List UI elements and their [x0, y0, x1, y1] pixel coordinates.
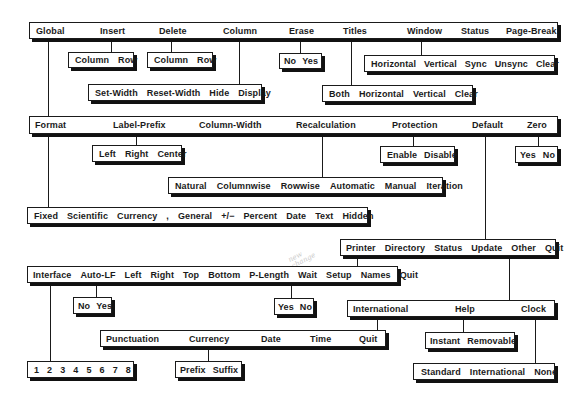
format-text-item[interactable]: Text [315, 211, 333, 221]
clock-none-item[interactable]: None [534, 367, 557, 377]
window-unsync-item[interactable]: Unsync [495, 59, 528, 69]
global-recalculation-item[interactable]: Recalculation [296, 120, 356, 130]
window-clear-item[interactable]: Clear [536, 59, 559, 69]
wait-yes-item[interactable]: Yes [278, 302, 294, 312]
default-directory-item[interactable]: Directory [385, 243, 425, 253]
format-fixed-item[interactable]: Fixed [34, 211, 58, 221]
currency-prefix-item[interactable]: Prefix [180, 365, 206, 375]
protection-enable-item[interactable]: Enable [387, 150, 417, 160]
window-sync-item[interactable]: Sync [465, 59, 487, 69]
window-horizontal-item[interactable]: Horizontal [371, 59, 416, 69]
menu-item-status[interactable]: Status [461, 26, 489, 36]
titles-both-item[interactable]: Both [329, 89, 350, 99]
intl-date-item[interactable]: Date [261, 334, 281, 344]
printer-top-item[interactable]: Top [183, 270, 199, 280]
protection-disable-item[interactable]: Disable [424, 150, 457, 160]
menu-item-delete[interactable]: Delete [159, 26, 187, 36]
recalc-manual-item[interactable]: Manual [385, 181, 417, 191]
global-label-prefix-item[interactable]: Label-Prefix [113, 120, 166, 130]
intl-quit-item[interactable]: Quit [359, 334, 377, 344]
printer-bottom-item[interactable]: Bottom [208, 270, 240, 280]
format-comma-item[interactable]: , [166, 211, 169, 221]
help-instant-item[interactable]: Instant [430, 336, 460, 346]
interface-3-item[interactable]: 3 [60, 365, 65, 375]
default-status-item[interactable]: Status [434, 243, 462, 253]
zero-yes-item[interactable]: Yes [520, 150, 536, 160]
global-protection-item[interactable]: Protection [392, 120, 438, 130]
format-date-item[interactable]: Date [286, 211, 306, 221]
interface-4-item[interactable]: 4 [73, 365, 78, 375]
menu-item-page-break[interactable]: Page-Break [506, 26, 557, 36]
titles-clear-item[interactable]: Clear [455, 89, 478, 99]
menu-item-global[interactable]: Global [36, 26, 65, 36]
intl-time-item[interactable]: Time [310, 334, 331, 344]
default-other-item[interactable]: Other [511, 243, 536, 253]
menu-item-titles[interactable]: Titles [343, 26, 367, 36]
label-left-item[interactable]: Left [99, 149, 116, 159]
printer-names-item[interactable]: Names [361, 270, 391, 280]
interface-5-item[interactable]: 5 [86, 365, 91, 375]
clock-international-item[interactable]: International [470, 367, 525, 377]
format-general-item[interactable]: General [178, 211, 212, 221]
default-update-item[interactable]: Update [471, 243, 502, 253]
column-display-item[interactable]: Display [238, 88, 271, 98]
other-clock-item[interactable]: Clock [521, 304, 546, 314]
insert-column-item[interactable]: Column [75, 55, 109, 65]
global-format-item[interactable]: Format [35, 120, 66, 130]
menu-item-erase[interactable]: Erase [289, 26, 314, 36]
interface-7-item[interactable]: 7 [113, 365, 118, 375]
currency-suffix-item[interactable]: Suffix [213, 365, 239, 375]
help-removable-item[interactable]: Removable [467, 336, 516, 346]
window-vertical-item[interactable]: Vertical [424, 59, 457, 69]
zero-no-item[interactable]: No [543, 150, 555, 160]
printer-setup-item[interactable]: Setup [326, 270, 352, 280]
printer-wait-item[interactable]: Wait [298, 270, 317, 280]
wait-no-item[interactable]: No [300, 302, 312, 312]
insert-row-item[interactable]: Row [118, 55, 137, 65]
recalc-rowwise-item[interactable]: Rowwise [281, 181, 320, 191]
label-center-item[interactable]: Center [157, 149, 186, 159]
format-hidden-item[interactable]: Hidden [342, 211, 373, 221]
recalc-iteration-item[interactable]: Iteration [426, 181, 462, 191]
auto-lf-yes-item[interactable]: Yes [96, 301, 112, 311]
printer-right-item[interactable]: Right [151, 270, 175, 280]
column-reset-width-item[interactable]: Reset-Width [147, 88, 201, 98]
interface-8-item[interactable]: 8 [126, 365, 131, 375]
interface-1-item[interactable]: 1 [34, 365, 39, 375]
label-right-item[interactable]: Right [125, 149, 149, 159]
erase-no-item[interactable]: No [284, 56, 296, 66]
default-quit-item[interactable]: Quit [545, 243, 563, 253]
auto-lf-no-item[interactable]: No [78, 301, 90, 311]
default-printer-item[interactable]: Printer [346, 243, 376, 253]
menu-item-insert[interactable]: Insert [100, 26, 125, 36]
clock-standard-item[interactable]: Standard [421, 367, 461, 377]
format-percent-item[interactable]: Percent [244, 211, 278, 221]
intl-punctuation-item[interactable]: Punctuation [106, 334, 159, 344]
format-currency-item[interactable]: Currency [117, 211, 157, 221]
printer-auto-lf-item[interactable]: Auto-LF [80, 270, 115, 280]
erase-yes-item[interactable]: Yes [302, 56, 318, 66]
delete-column-item[interactable]: Column [154, 55, 188, 65]
global-default-item[interactable]: Default [472, 120, 503, 130]
global-column-width-item[interactable]: Column-Width [199, 120, 262, 130]
other-international-item[interactable]: International [353, 304, 408, 314]
printer-interface-item[interactable]: Interface [33, 270, 71, 280]
format-plus-minus-item[interactable]: +/− [221, 211, 234, 221]
column-set-width-item[interactable]: Set-Width [95, 88, 138, 98]
intl-currency-item[interactable]: Currency [189, 334, 229, 344]
printer-quit-item[interactable]: Quit [400, 270, 418, 280]
titles-horizontal-item[interactable]: Horizontal [359, 89, 404, 99]
column-hide-item[interactable]: Hide [209, 88, 229, 98]
menu-item-column[interactable]: Column [223, 26, 257, 36]
printer-p-length-item[interactable]: P-Length [249, 270, 289, 280]
titles-vertical-item[interactable]: Vertical [413, 89, 446, 99]
interface-2-item[interactable]: 2 [47, 365, 52, 375]
global-zero-item[interactable]: Zero [527, 120, 547, 130]
interface-6-item[interactable]: 6 [100, 365, 105, 375]
printer-left-item[interactable]: Left [125, 270, 142, 280]
menu-item-window[interactable]: Window [407, 26, 442, 36]
other-help-item[interactable]: Help [455, 304, 475, 314]
recalc-columnwise-item[interactable]: Columnwise [217, 181, 271, 191]
delete-row-item[interactable]: Row [197, 55, 216, 65]
format-scientific-item[interactable]: Scientific [67, 211, 108, 221]
